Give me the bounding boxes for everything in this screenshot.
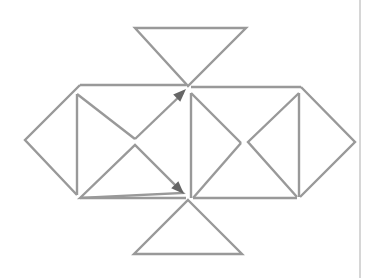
right-diamond xyxy=(300,87,355,197)
left-diamond xyxy=(25,85,80,195)
left-upper-diag xyxy=(77,94,135,139)
net-diagram xyxy=(0,0,375,278)
bottom-triangle xyxy=(134,200,242,254)
right-lower-diag xyxy=(193,143,241,198)
right-mid-triangle xyxy=(248,93,299,197)
left-lower-triangle xyxy=(80,145,183,198)
top-triangle xyxy=(135,28,246,86)
right-upper-diag xyxy=(191,93,241,143)
left-arrow-up xyxy=(135,93,183,139)
